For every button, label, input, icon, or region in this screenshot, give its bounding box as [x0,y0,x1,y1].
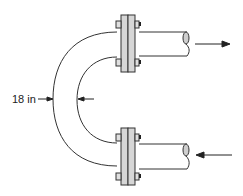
bottom-pipe-cut-end [183,144,189,156]
u-bend-pipe-diagram [0,0,243,196]
outlet-flow-arrow-icon [195,41,230,47]
bottom-flange [116,128,141,185]
bolt-head-icon [116,59,121,66]
dimension-label: 18 in [12,93,36,106]
bolt-head-icon [116,21,121,28]
dimension-arrows [38,97,94,101]
inlet-flow-arrow-icon [196,152,232,158]
nut-icon [135,173,139,180]
top-pipe-cut-end [183,32,189,44]
bottom-pipe [139,144,189,169]
top-pipe [139,32,189,56]
bolt-head-icon [116,173,121,180]
nut-icon [135,21,139,28]
nut-icon [135,59,139,66]
nut-icon [135,134,139,141]
top-flange [116,15,141,72]
bolt-head-icon [116,134,121,141]
